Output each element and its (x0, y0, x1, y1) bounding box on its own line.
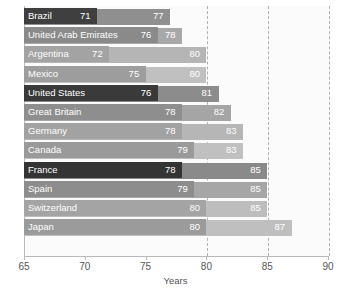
bar-category-label: Canada (28, 142, 61, 158)
bar-row: Germany7883 (24, 123, 328, 142)
bar-category-label: Argentina (28, 46, 69, 62)
bar-value-inner: 80 (189, 200, 200, 216)
life-expectancy-bar-chart: Brazil7177United Arab Emirates7678Argent… (0, 0, 351, 298)
bar-category-label: Switzerland (28, 200, 77, 216)
bar-category-label: United Arab Emirates (28, 27, 118, 43)
bar-value-outer: 85 (250, 200, 261, 216)
bar-row: Great Britain7882 (24, 104, 328, 123)
bar-value-outer: 85 (250, 181, 261, 197)
bar-category-label: France (28, 162, 58, 178)
bar-value-inner: 78 (165, 162, 176, 178)
bar-value-outer: 83 (226, 142, 237, 158)
bar-category-label: Mexico (28, 66, 58, 82)
x-tick-65 (24, 256, 25, 260)
x-tick-label-90: 90 (322, 261, 333, 272)
bar-row: Argentina7280 (24, 46, 328, 65)
bar-value-inner: 71 (80, 8, 91, 24)
bar-row: France7885 (24, 162, 328, 181)
bar-value-inner: 80 (189, 219, 200, 235)
bar-value-inner: 76 (141, 85, 152, 101)
x-tick-label-85: 85 (262, 261, 273, 272)
bar-row: Spain7985 (24, 181, 328, 200)
x-tick-label-70: 70 (79, 261, 90, 272)
bar-category-label: Germany (28, 123, 67, 139)
bar-value-outer: 83 (226, 123, 237, 139)
bar-value-outer: 77 (153, 8, 164, 24)
x-tick-90 (328, 256, 329, 260)
bar-row: Switzerland8085 (24, 200, 328, 219)
x-tick-label-80: 80 (201, 261, 212, 272)
bar-value-outer: 78 (165, 27, 176, 43)
bar-value-inner: 75 (129, 66, 140, 82)
gridline-90 (329, 6, 330, 256)
bar-category-label: Great Britain (28, 104, 81, 120)
bar-value-inner: 78 (165, 104, 176, 120)
bar-value-inner: 72 (92, 46, 103, 62)
x-tick-75 (146, 256, 147, 260)
bar-row: Canada7983 (24, 142, 328, 161)
bar-row: Brazil7177 (24, 8, 328, 27)
bar-value-outer: 85 (250, 162, 261, 178)
bar-category-label: Japan (28, 219, 54, 235)
x-tick-85 (267, 256, 268, 260)
bar-value-inner: 76 (141, 27, 152, 43)
bar-value-outer: 82 (214, 104, 225, 120)
bar-row: Mexico7580 (24, 66, 328, 85)
bar-series: Brazil7177United Arab Emirates7678Argent… (24, 8, 328, 238)
bar-row: Japan8087 (24, 219, 328, 238)
x-axis-line (24, 256, 328, 257)
bar-value-outer: 87 (275, 219, 286, 235)
bar-value-inner: 79 (177, 142, 188, 158)
x-tick-70 (85, 256, 86, 260)
bar-value-outer: 81 (202, 85, 213, 101)
bar-value-inner: 78 (165, 123, 176, 139)
x-axis-label: Years (0, 275, 351, 286)
bar-row: United Arab Emirates7678 (24, 27, 328, 46)
bar-category-label: Brazil (28, 8, 52, 24)
x-tick-label-75: 75 (140, 261, 151, 272)
bar-value-inner: 79 (177, 181, 188, 197)
bar-row: United States7681 (24, 85, 328, 104)
bar-value-outer: 80 (189, 46, 200, 62)
x-tick-80 (206, 256, 207, 260)
bar-value-outer: 80 (189, 66, 200, 82)
bar-category-label: Spain (28, 181, 52, 197)
bar-category-label: United States (28, 85, 85, 101)
x-tick-label-65: 65 (18, 261, 29, 272)
